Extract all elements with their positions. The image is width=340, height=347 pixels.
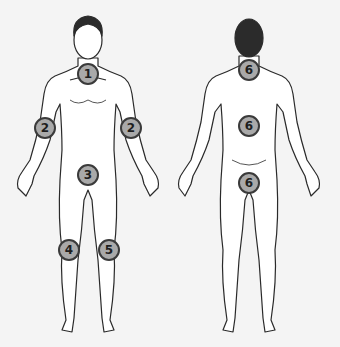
marker-back-back-of-neck: 6 — [238, 59, 260, 81]
marker-front-right-upper-arm: 2 — [34, 117, 56, 139]
marker-front-right-knee: 4 — [58, 239, 80, 261]
marker-back-lower-back: 6 — [238, 115, 260, 137]
marker-back-buttocks: 6 — [238, 172, 260, 194]
body-illustration — [0, 0, 340, 347]
marker-front-left-upper-arm: 2 — [120, 117, 142, 139]
body-diagram: 122345666 — [0, 0, 340, 347]
marker-front-left-knee: 5 — [98, 239, 120, 261]
marker-front-neck-front: 1 — [77, 63, 99, 85]
marker-front-groin: 3 — [77, 164, 99, 186]
